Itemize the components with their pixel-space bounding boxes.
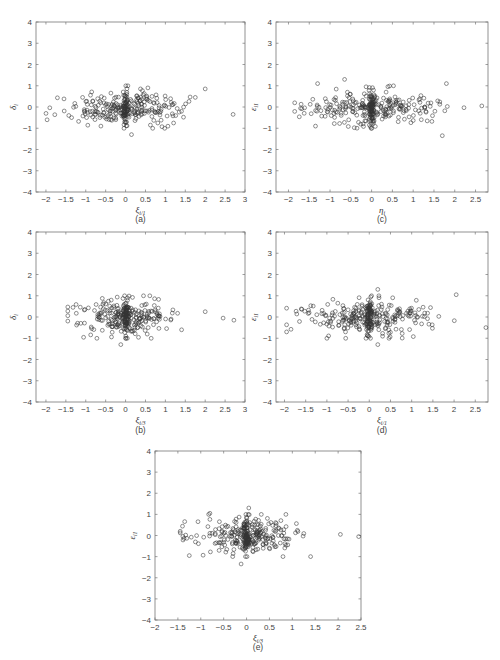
- y-tick-label: −2: [263, 146, 273, 155]
- data-point: [297, 115, 301, 119]
- data-point: [480, 104, 484, 108]
- data-point: [343, 121, 347, 125]
- data-point: [66, 309, 70, 313]
- data-point: [428, 105, 432, 109]
- data-point: [309, 304, 313, 308]
- data-point: [403, 117, 407, 121]
- y-tick-label: −4: [23, 398, 33, 407]
- data-point: [355, 113, 359, 117]
- x-tick-label: 1.5: [310, 623, 322, 632]
- data-point: [253, 523, 257, 527]
- data-point: [174, 114, 178, 118]
- data-point: [352, 126, 356, 130]
- x-tick-label: 0: [367, 405, 372, 414]
- data-point: [109, 318, 113, 322]
- data-point: [346, 308, 350, 312]
- y-tick-label: −3: [263, 167, 273, 176]
- data-point: [193, 96, 197, 100]
- x-tick-label: −2: [284, 195, 294, 204]
- data-point: [110, 335, 114, 339]
- data-point: [336, 301, 340, 305]
- data-point: [315, 313, 319, 317]
- y-tick-label: 1: [268, 82, 273, 91]
- data-point: [89, 103, 93, 107]
- data-point: [285, 330, 289, 334]
- y-tick-label: 4: [28, 18, 33, 27]
- data-point: [94, 303, 98, 307]
- data-point: [279, 519, 283, 523]
- y-tick-label: 0: [147, 532, 152, 541]
- data-point: [421, 305, 425, 309]
- y-tick-label: 0: [268, 103, 273, 112]
- data-point: [346, 90, 350, 94]
- data-point: [266, 517, 270, 521]
- data-point: [90, 90, 94, 94]
- y-tick-label: −1: [263, 124, 273, 133]
- panel-caption: (c): [377, 214, 387, 224]
- data-point: [330, 108, 334, 112]
- data-point: [164, 317, 168, 321]
- x-tick-label: 0.5: [140, 405, 152, 414]
- x-tick-label: −0.5: [98, 195, 114, 204]
- data-point: [180, 109, 184, 113]
- data-point: [77, 120, 81, 124]
- data-point: [137, 335, 141, 339]
- data-point: [327, 324, 331, 328]
- data-point: [218, 520, 222, 524]
- x-tick-label: 0: [369, 195, 374, 204]
- y-tick-label: −4: [263, 398, 273, 407]
- data-point: [181, 524, 185, 528]
- data-point: [331, 325, 335, 329]
- data-point: [346, 125, 350, 129]
- data-point: [66, 319, 70, 323]
- data-point: [407, 115, 411, 119]
- data-point: [369, 295, 373, 299]
- data-point: [377, 328, 381, 332]
- data-point: [394, 327, 398, 331]
- y-tick-label: −1: [142, 553, 152, 562]
- data-point: [183, 520, 187, 524]
- x-tick-label: 2.5: [220, 195, 232, 204]
- data-point: [155, 320, 159, 324]
- data-point: [302, 532, 306, 536]
- y-tick-label: 3: [268, 39, 273, 48]
- data-point: [146, 86, 150, 90]
- data-point: [165, 327, 169, 331]
- data-point: [100, 328, 104, 332]
- data-point: [425, 119, 429, 123]
- data-point: [208, 518, 212, 522]
- y-tick-label: −1: [23, 334, 33, 343]
- data-point: [184, 102, 188, 106]
- data-point: [86, 123, 90, 127]
- data-point: [195, 534, 199, 538]
- plot-frame: [276, 22, 488, 192]
- data-point: [53, 113, 57, 117]
- data-point: [400, 332, 404, 336]
- data-point: [452, 319, 456, 323]
- y-tick-label: 1: [268, 292, 273, 301]
- data-point: [334, 98, 338, 102]
- data-point: [172, 121, 176, 125]
- data-point: [311, 97, 315, 101]
- data-point: [326, 303, 330, 307]
- data-point: [308, 102, 312, 106]
- data-point: [417, 308, 421, 312]
- data-point: [214, 528, 218, 532]
- data-point: [157, 298, 161, 302]
- panel-caption: (a): [135, 214, 146, 224]
- x-tick-label: −0.5: [340, 405, 356, 414]
- x-tick-label: −1.5: [58, 195, 74, 204]
- y-tick-label: −4: [263, 188, 273, 197]
- x-tick-label: −1: [322, 405, 332, 414]
- data-point: [332, 122, 336, 126]
- data-point: [381, 334, 385, 338]
- data-point: [203, 87, 207, 91]
- data-point: [429, 306, 433, 310]
- plot-frame: [36, 22, 245, 192]
- y-axis-label: δi: [8, 314, 19, 320]
- scatter-panel-b: −2−1.5−1−0.500.511.522.53−4−3−2−101234ξi…: [8, 228, 248, 435]
- data-point: [284, 525, 288, 529]
- x-tick-label: −1.5: [301, 195, 317, 204]
- data-point: [187, 554, 191, 558]
- x-tick-label: 2.5: [355, 623, 367, 632]
